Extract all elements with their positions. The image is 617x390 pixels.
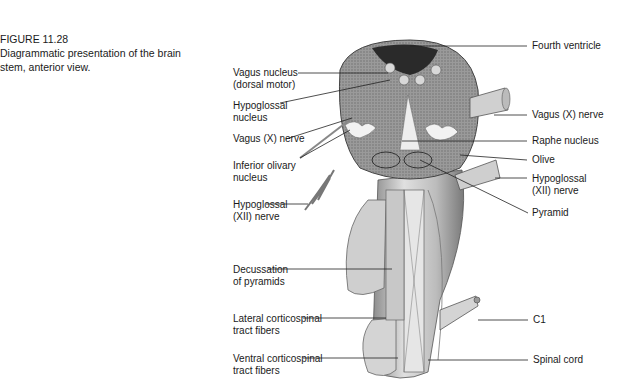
label-vagus-nucleus: Vagus nucleus (dorsal motor) xyxy=(233,67,298,91)
label-vagus-nerve-left: Vagus (X) nerve xyxy=(233,133,305,145)
label-spinal-cord: Spinal cord xyxy=(533,354,583,366)
label-hypoglossal-nerve-right: Hypoglossal (XII) nerve xyxy=(532,173,586,197)
label-pyramid: Pyramid xyxy=(532,207,569,219)
label-c1: C1 xyxy=(533,314,546,326)
label-fourth-ventricle: Fourth ventricle xyxy=(532,40,601,52)
label-olive: Olive xyxy=(532,154,555,166)
label-lateral-corticospinal: Lateral corticospinal tract fibers xyxy=(233,313,322,337)
label-hypoglossal-nerve-left: Hypoglossal (XII) nerve xyxy=(233,199,287,223)
label-decussation-of-pyramids: Decussation of pyramids xyxy=(233,264,288,288)
label-ventral-corticospinal: Ventral corticospinal tract fibers xyxy=(233,353,323,377)
label-hypoglossal-nucleus: Hypoglossal nucleus xyxy=(233,100,287,124)
label-raphe-nucleus: Raphe nucleus xyxy=(532,135,599,147)
label-inferior-olivary-nucleus: Inferior olivary nucleus xyxy=(233,160,296,184)
label-vagus-nerve-right: Vagus (X) nerve xyxy=(532,109,604,121)
